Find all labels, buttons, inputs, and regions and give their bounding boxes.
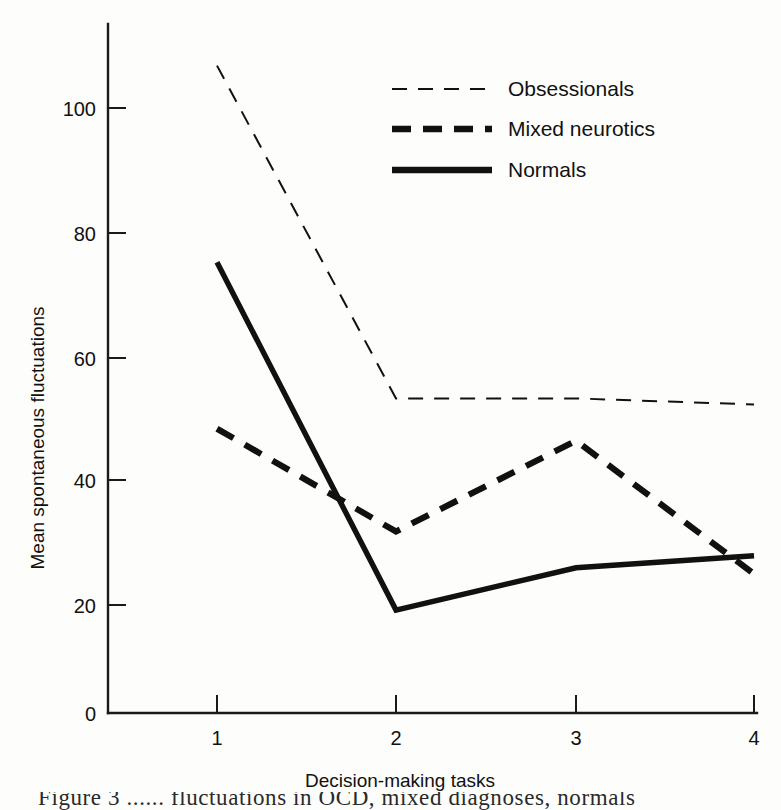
y-tick-label-60: 60 (74, 348, 96, 370)
y-tick-label-40: 40 (74, 470, 96, 492)
chart-legend: Obsessionals Mixed neurotics Normals (392, 77, 655, 181)
legend-label-obsessionals: Obsessionals (508, 77, 634, 100)
y-tick-label-20: 20 (74, 595, 96, 617)
legend-label-normals: Normals (508, 158, 586, 181)
x-tick-label-1: 1 (211, 727, 222, 749)
x-tick-label-2: 2 (390, 727, 401, 749)
figure-caption-strip: Figure 3 ...... fluctuations in OCD, mix… (0, 792, 781, 810)
x-tick-marks (217, 695, 754, 713)
series-line-obsessionals (217, 66, 754, 405)
x-tick-label-3: 3 (570, 727, 581, 749)
y-tick-label-80: 80 (74, 223, 96, 245)
figure-caption: Figure 3 ...... fluctuations in OCD, mix… (38, 792, 635, 810)
y-tick-label-100: 100 (63, 98, 96, 120)
y-axis-title: Mean spontaneous fluctuations (27, 306, 48, 569)
x-axis-title: Decision-making tasks (305, 770, 495, 791)
legend-label-mixed-neurotics: Mixed neurotics (508, 117, 655, 140)
y-tick-marks (108, 108, 126, 605)
series-line-normals (217, 262, 754, 610)
series-line-mixed-neurotics (217, 429, 754, 574)
line-chart: 100 80 60 40 20 0 1 2 3 4 Mean spontaneo… (0, 0, 781, 810)
x-tick-label-4: 4 (748, 727, 759, 749)
y-tick-label-0: 0 (85, 703, 96, 725)
figure-panel: 100 80 60 40 20 0 1 2 3 4 Mean spontaneo… (0, 0, 781, 810)
